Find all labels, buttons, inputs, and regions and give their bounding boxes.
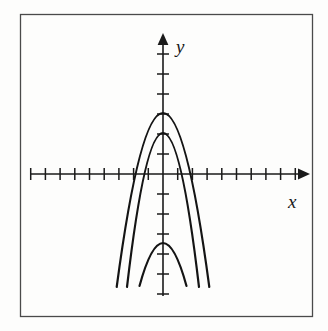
x-axis-label: x (287, 191, 297, 212)
parabola-figure: y x (0, 0, 328, 331)
figure-border (21, 15, 313, 317)
axes-group (30, 43, 299, 296)
figure-container: y x (0, 0, 328, 331)
x-axis-arrowhead (298, 169, 310, 180)
y-axis-label: y (174, 36, 185, 57)
y-axis-arrowhead (158, 33, 169, 45)
